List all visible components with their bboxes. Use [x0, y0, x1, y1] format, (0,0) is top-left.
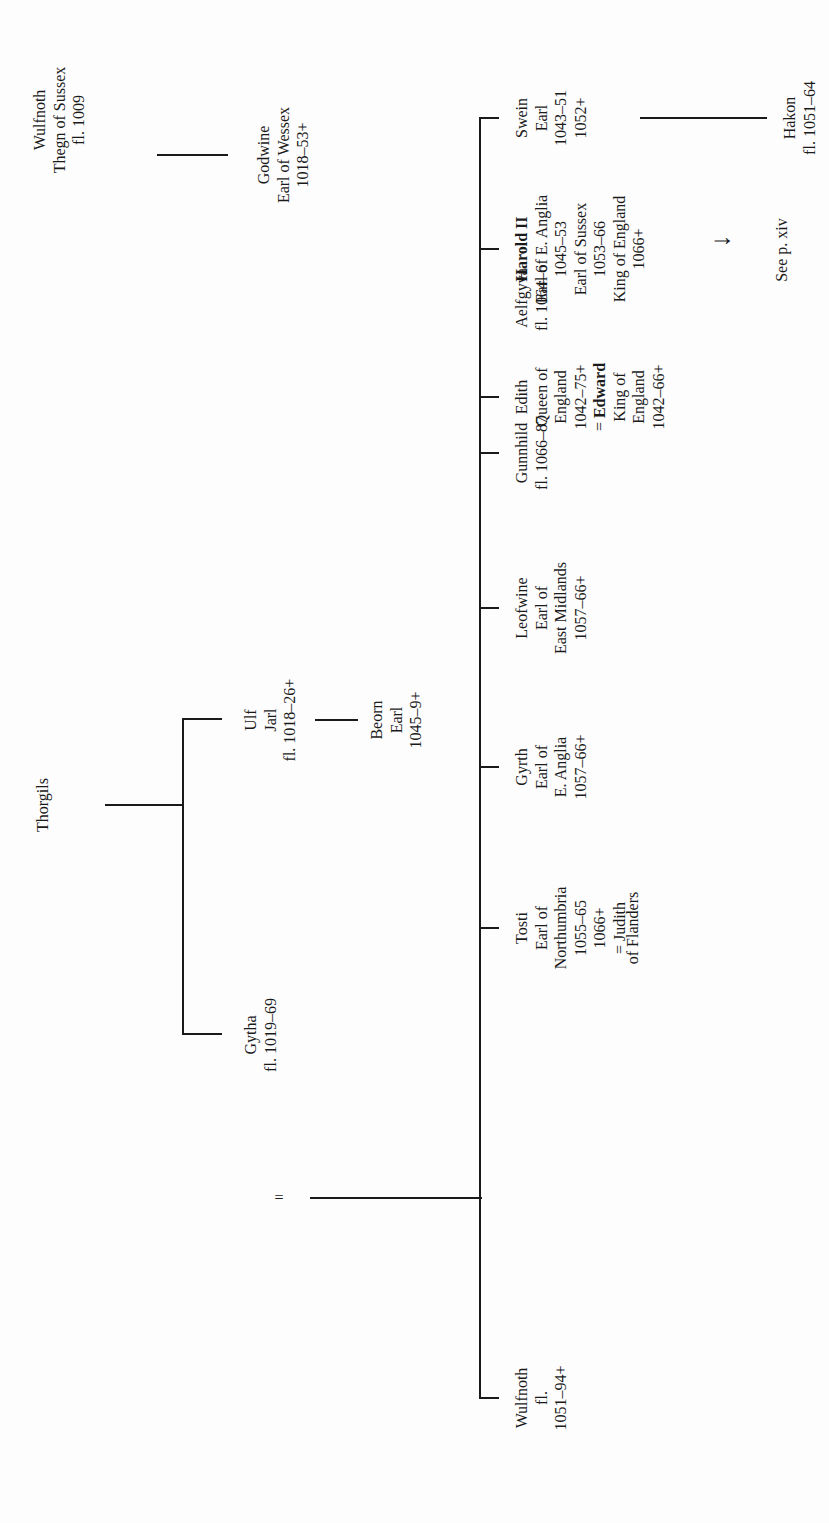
death: 1066+ [590, 887, 610, 970]
name: Gunnhild [512, 416, 532, 490]
dates: 1045–53 [551, 195, 571, 303]
node-beorn: Beorn Earl 1045–9+ [367, 691, 426, 748]
title: East Midlands [551, 562, 571, 654]
spouse-title: King of [610, 363, 630, 431]
title: fl. [532, 1365, 552, 1430]
node-wulfnoth-son: Wulfnoth fl. 1051–94+ [512, 1365, 571, 1430]
title: Earl of [532, 887, 552, 970]
node-hakon: Hakon fl. 1051–64 [780, 81, 819, 155]
family-tree-diagram: Wulfnoth Thegn of Sussex fl. 1009 Thorgi… [0, 0, 829, 1523]
dates: 1055–65 [571, 887, 591, 970]
spouse-dates: 1042–66+ [649, 363, 669, 431]
title: Northumbria [551, 887, 571, 970]
dates: 1045–9+ [406, 691, 426, 748]
tick-gunnhild [479, 452, 499, 454]
node-swein: Swein Earl 1043–51 1052+ [512, 90, 590, 146]
dates: 1057–66+ [571, 562, 591, 654]
name: Wulfnoth [30, 67, 50, 174]
sibling-bar-thorgils-children [182, 718, 184, 1035]
dates: 1053–66 [590, 195, 610, 303]
title: Earl [532, 90, 552, 146]
see-page-text[interactable]: See p. xiv [772, 218, 792, 282]
spouse-origin: of Flanders [623, 887, 643, 970]
title: Thegn of Sussex [50, 67, 70, 174]
dates: fl. 1051–64 [800, 81, 820, 155]
node-tosti: Tosti Earl of Northumbria 1055–65 1066+ … [512, 887, 643, 970]
dates: 1018–53+ [293, 107, 313, 203]
dates: 1066+ [629, 195, 649, 303]
tick-swein [479, 117, 499, 119]
dates: 1051–94+ [551, 1365, 571, 1430]
spouse-name: Edward [591, 363, 608, 418]
dates: fl. 1018–26+ [280, 679, 300, 762]
descent-stub-thorgils [105, 804, 184, 806]
node-aelfgyva: Aelfgyva fl. 1064–6 [512, 265, 551, 331]
dates: fl. 1066–87 [532, 416, 552, 490]
node-godwine: Godwine Earl of Wessex 1018–53+ [254, 107, 313, 203]
descent-line-wulfnoth-godwine [157, 154, 228, 156]
name: Wulfnoth [512, 1365, 532, 1430]
spouse: = Edward [590, 363, 610, 431]
node-ulf: Ulf Jarl fl. 1018–26+ [241, 679, 300, 762]
cross-reference-link[interactable]: See p. xiv [772, 218, 792, 282]
name: Swein [512, 90, 532, 146]
node-gytha: Gytha fl. 1019–69 [241, 998, 280, 1072]
descent-line-marriage [310, 1197, 482, 1199]
tick-gyrth [479, 766, 499, 768]
name: Gyrth [512, 734, 532, 799]
name: Hakon [780, 81, 800, 155]
tick-tosti [479, 927, 499, 929]
dates: fl. 1009 [69, 67, 89, 174]
sibling-bar-godwine-children [479, 118, 481, 1398]
descent-line-ulf-beorn [315, 719, 358, 721]
dates: fl. 1019–69 [261, 998, 281, 1072]
title: King of England [610, 195, 630, 303]
dates: 1042–75+ [571, 363, 591, 431]
marriage-symbol: = [591, 418, 608, 431]
tick-harold [479, 248, 499, 250]
marriage-symbol: = [274, 1189, 283, 1207]
name: Beorn [367, 691, 387, 748]
node-leofwine: Leofwine Earl of East Midlands 1057–66+ [512, 562, 590, 654]
name: Tosti [512, 887, 532, 970]
title: Earl of [532, 562, 552, 654]
title: E. Anglia [551, 734, 571, 799]
title: Earl of Wessex [274, 107, 294, 203]
spouse-title: England [629, 363, 649, 431]
tick-gytha [182, 1033, 222, 1035]
tick-leofwine [479, 607, 499, 609]
title: Jarl [261, 679, 281, 762]
tick-edith [479, 396, 499, 398]
title: England [551, 363, 571, 431]
dates: 1043–51 [551, 90, 571, 146]
tick-ulf [182, 718, 222, 720]
name: Gytha [241, 998, 261, 1072]
tick-wulfnoth-son [479, 1397, 499, 1399]
dates: fl. 1064–6 [532, 265, 552, 331]
node-thorgils: Thorgils [33, 778, 53, 832]
arrow-down-icon: ↓ [708, 235, 734, 248]
node-wulfnoth-thegn: Wulfnoth Thegn of Sussex fl. 1009 [30, 67, 89, 174]
title: Earl [387, 691, 407, 748]
title: Earl of [532, 734, 552, 799]
name: Leofwine [512, 562, 532, 654]
descent-line-swein-hakon [640, 117, 767, 119]
name: Godwine [254, 107, 274, 203]
dates: 1057–66+ [571, 734, 591, 799]
title: Earl of Sussex [571, 195, 591, 303]
node-gyrth: Gyrth Earl of E. Anglia 1057–66+ [512, 734, 590, 799]
name: Ulf [241, 679, 261, 762]
name: Aelfgyva [512, 265, 532, 331]
name: Thorgils [33, 778, 53, 832]
node-gunnhild: Gunnhild fl. 1066–87 [512, 416, 551, 490]
death: 1052+ [571, 90, 591, 146]
